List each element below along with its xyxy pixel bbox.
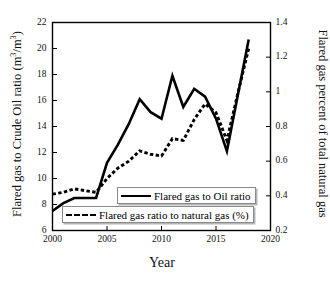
y-axis-right-tick-label: 0.6 (276, 155, 298, 165)
y-axis-left-tick-label: 16 (27, 95, 47, 105)
legend-label-dashed: Flared gas ratio to natural gas (%) (99, 208, 249, 222)
y-axis-right-tick-label: 1.4 (276, 17, 298, 27)
y-axis-left-tick-label: 10 (27, 173, 47, 183)
y-axis-left-tick-label: 12 (27, 147, 47, 157)
y-axis-right-tick-label: 0.4 (276, 190, 298, 200)
x-axis-tick-label: 2020 (254, 234, 288, 244)
x-axis-tick-label: 2010 (145, 234, 179, 244)
legend-item-flared-gas-ratio-to-natural-gas[interactable]: Flared gas ratio to natural gas (%) (62, 206, 254, 223)
x-axis-tick-label: 2000 (36, 234, 70, 244)
x-axis-tick-label: 2015 (199, 234, 233, 244)
legend-dashed-line-swatch (66, 214, 96, 216)
y-axis-left-tick-label: 14 (27, 121, 47, 131)
legend-solid-line-swatch (121, 195, 151, 197)
y-axis-left-tick-label: 18 (27, 69, 47, 79)
x-axis-tick-label: 2005 (90, 234, 124, 244)
y-axis-left-tick-label: 20 (27, 43, 47, 53)
y-axis-right-tick-label: 1 (276, 86, 298, 96)
legend-label-solid: Flared gas to Oil ratio (154, 189, 251, 203)
y-axis-right-tick-label: 1.2 (276, 51, 298, 61)
legend-item-flared-gas-to-oil-ratio[interactable]: Flared gas to Oil ratio (117, 187, 256, 204)
series-line-dashed (53, 49, 249, 195)
y-axis-left-tick-label: 8 (27, 199, 47, 209)
y-axis-left-tick-label: 22 (27, 17, 47, 27)
y-axis-right-tick-label: 0.8 (276, 121, 298, 131)
data-series (53, 39, 249, 211)
series-line-solid (53, 39, 249, 211)
